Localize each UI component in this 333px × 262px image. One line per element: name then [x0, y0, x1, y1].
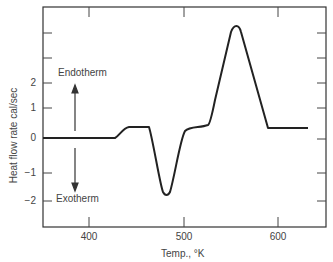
x-tick-400: 400: [69, 231, 109, 242]
endotherm-label: Endotherm: [58, 67, 107, 78]
y-axis-label: Heat flow rate cal/sec: [8, 71, 19, 201]
y-tick-minus-1: −1: [16, 167, 36, 178]
endotherm-arrowhead-icon: [72, 85, 78, 93]
chart-canvas: [0, 0, 333, 262]
dsc-curve: [43, 26, 308, 195]
y-ticks-left: [43, 33, 52, 201]
x-tick-500: 500: [164, 231, 204, 242]
y-tick-minus-2: −2: [16, 195, 36, 206]
x-tick-600: 600: [258, 231, 298, 242]
y-tick-1: 1: [16, 102, 36, 113]
x-ticks: [89, 7, 278, 227]
x-axis-label: Temp., °K: [161, 248, 204, 259]
y-ticks-right: [317, 33, 326, 201]
exotherm-label: Exotherm: [56, 193, 99, 204]
y-tick-0: 0: [16, 132, 36, 143]
exotherm-arrowhead-icon: [72, 183, 78, 191]
y-tick-2: 2: [16, 77, 36, 88]
